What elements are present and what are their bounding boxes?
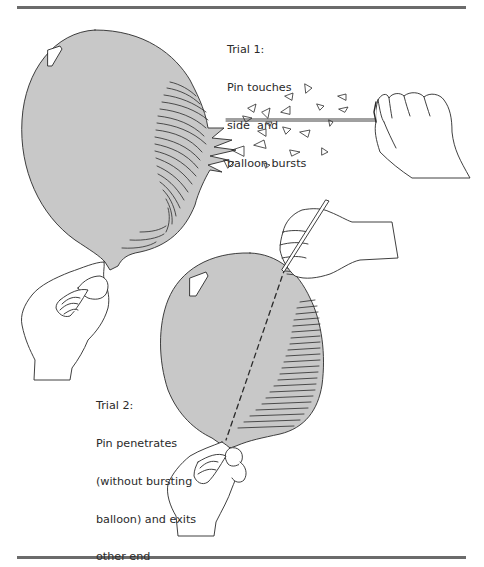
trial2-caption: Trial 2: Pin penetrates (without burstin…	[96, 375, 196, 567]
trial1-line-2: side and	[227, 120, 306, 133]
trial2-line-1: Pin penetrates	[96, 438, 196, 451]
trial1-left-hand	[21, 262, 108, 380]
trial1-balloon	[22, 30, 236, 270]
trial2-line-4: other end	[96, 551, 196, 564]
trial1-balloon-body	[22, 30, 236, 270]
trial2-title: Trial 2:	[96, 400, 196, 413]
trial1-title: Trial 1:	[227, 44, 306, 57]
trial2-top-hand	[280, 209, 398, 278]
trial1-line-3: balloon bursts	[227, 158, 306, 171]
trial1-caption: Trial 1: Pin touches side and balloon bu…	[227, 19, 306, 183]
trial2-line-2: (without bursting	[96, 476, 196, 489]
trial1-line-1: Pin touches	[227, 82, 306, 95]
trial2-line-3: balloon) and exits	[96, 514, 196, 527]
trial1-right-hand	[374, 93, 470, 178]
